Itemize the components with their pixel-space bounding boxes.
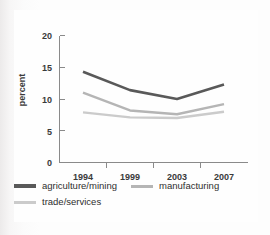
legend-label-manufacturing: manufacturing bbox=[159, 181, 219, 191]
legend-swatch-agriculture-mining bbox=[14, 184, 36, 188]
y-axis-title: percent bbox=[17, 74, 27, 107]
y-tick-label-20: 20 bbox=[42, 31, 52, 41]
legend-row-2: trade/services bbox=[14, 194, 258, 210]
legend-item-agriculture-mining[interactable]: agriculture/mining bbox=[14, 181, 117, 191]
legend-label-trade-services: trade/services bbox=[42, 197, 101, 207]
y-tick-label-10: 10 bbox=[42, 95, 52, 105]
y-tick-label-5: 5 bbox=[47, 127, 52, 137]
line-chart: percent 20 15 10 5 0 1994 1999 2003 bbox=[14, 10, 258, 180]
legend-item-manufacturing[interactable]: manufacturing bbox=[131, 181, 219, 191]
legend-item-trade-services[interactable]: trade/services bbox=[14, 197, 101, 207]
y-tick-label-0: 0 bbox=[47, 158, 52, 168]
series-line-agriculture-mining bbox=[83, 72, 224, 99]
chart-figure: percent 20 15 10 5 0 1994 1999 2003 bbox=[0, 0, 270, 235]
legend-row-1: agriculture/mining manufacturing bbox=[14, 178, 258, 194]
series-group bbox=[83, 72, 224, 118]
legend-swatch-manufacturing bbox=[131, 185, 153, 188]
chart-legend: agriculture/mining manufacturing trade/s… bbox=[14, 178, 258, 210]
y-tick-label-15: 15 bbox=[42, 63, 52, 73]
legend-label-agriculture-mining: agriculture/mining bbox=[42, 181, 117, 191]
legend-swatch-trade-services bbox=[14, 201, 36, 204]
series-line-manufacturing bbox=[83, 93, 224, 115]
